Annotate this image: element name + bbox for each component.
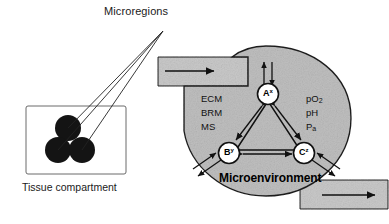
factor-label-ms: MS xyxy=(201,122,215,132)
factor-label-brm: BRM xyxy=(201,108,222,118)
factor-po2-sub: 2 xyxy=(319,97,323,104)
node-c-label: Cz xyxy=(299,147,309,157)
factor-label-ph: pH xyxy=(306,108,318,118)
figure-canvas: Microregions Tissue compartment Microenv… xyxy=(0,0,389,224)
tissue-compartment-box xyxy=(26,106,126,174)
factor-label-po2: pO2 xyxy=(306,94,323,104)
microregions-label: Microregions xyxy=(104,6,168,17)
factor-po2-base: pO xyxy=(306,93,319,104)
node-a-sup: x xyxy=(270,88,273,94)
factor-label-pa: Pa xyxy=(306,122,316,132)
factor-pa-sub: a xyxy=(312,125,316,132)
factor-ph-base: pH xyxy=(306,107,318,118)
factor-label-ecm: ECM xyxy=(201,94,222,104)
microenvironment-label: Microenvironment xyxy=(219,172,321,184)
node-b-sup: y xyxy=(231,147,234,153)
node-a-label: Ax xyxy=(263,88,273,98)
tissue-compartment-label: Tissue compartment xyxy=(22,182,117,193)
node-c-sup: z xyxy=(306,147,309,153)
node-b-label: By xyxy=(224,147,234,157)
inlet-flow-band xyxy=(158,57,248,86)
